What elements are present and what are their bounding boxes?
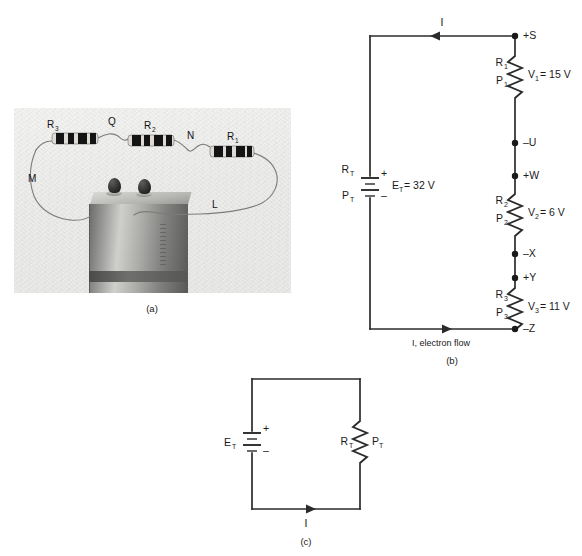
b-node-dot-X xyxy=(512,251,518,257)
c-resistor-RT-symbol xyxy=(353,421,367,463)
svg-text:P: P xyxy=(372,435,379,447)
b-resistor-R1-symbol xyxy=(508,56,522,98)
c-current-arrow-bottom xyxy=(306,505,316,514)
panel-b-schematic: + – R T P T E T = 32 V R 1 xyxy=(341,16,570,366)
b-source-resistance-label: R T xyxy=(341,163,355,177)
panel-c-schematic: + – E T R T P T I (c) xyxy=(224,379,384,547)
schematics-overlay: (a) + – R xyxy=(0,0,582,556)
svg-text:2: 2 xyxy=(535,213,539,220)
svg-text:3: 3 xyxy=(504,313,508,320)
b-node-dot-W xyxy=(512,173,518,179)
c-battery-plus: + xyxy=(263,422,269,434)
caption-a: (a) xyxy=(146,303,158,314)
svg-text:T: T xyxy=(379,442,384,449)
svg-text:3: 3 xyxy=(504,295,508,302)
b-node-label-S: +S xyxy=(523,29,536,41)
svg-text:R: R xyxy=(341,163,349,175)
c-load-resistance-label: R T xyxy=(340,435,354,449)
c-battery-symbol xyxy=(243,433,261,451)
b-power-P1-label: P 1 xyxy=(496,74,508,88)
svg-text:T: T xyxy=(349,442,354,449)
b-current-arrow-bottom xyxy=(442,325,452,334)
c-load-power-label: P T xyxy=(372,435,384,449)
b-current-arrow-top xyxy=(430,32,440,41)
b-emf-label: E T = 32 V xyxy=(392,179,435,193)
b-resistor-R3-symbol xyxy=(508,288,522,330)
b-battery-plus: + xyxy=(381,167,387,179)
b-node-label-U: –U xyxy=(523,136,536,148)
b-battery-symbol xyxy=(361,178,379,196)
svg-text:T: T xyxy=(232,443,237,450)
svg-text:P: P xyxy=(496,306,503,318)
svg-text:V: V xyxy=(528,68,535,80)
b-current-label-top: I xyxy=(441,16,444,28)
svg-text:V: V xyxy=(528,206,535,218)
b-resistor-R2-label: R 2 xyxy=(495,194,508,208)
svg-text:P: P xyxy=(496,74,503,86)
svg-text:R: R xyxy=(340,435,348,447)
c-current-label-bottom: I xyxy=(305,517,308,529)
b-node-label-W: +W xyxy=(523,169,539,181)
b-voltage-V1-label: V 1 = 15 V xyxy=(528,68,571,82)
svg-text:= 32 V: = 32 V xyxy=(404,179,435,191)
b-source-power-label: P T xyxy=(342,189,355,203)
svg-text:P: P xyxy=(496,212,503,224)
b-resistor-R1-label: R 1 xyxy=(495,56,508,70)
svg-text:= 11 V: = 11 V xyxy=(540,300,570,312)
b-current-label-bottom: I, electron flow xyxy=(412,338,471,348)
b-power-P3-label: P 3 xyxy=(496,306,508,320)
svg-text:2: 2 xyxy=(504,219,508,226)
b-node-dot-Z xyxy=(512,326,518,332)
c-emf-label: E T xyxy=(224,436,237,450)
svg-text:1: 1 xyxy=(535,75,539,82)
b-voltage-V3-label: V 3 = 11 V xyxy=(528,300,570,314)
b-voltage-V2-label: V 2 = 6 V xyxy=(528,206,565,220)
svg-text:R: R xyxy=(495,288,503,300)
figure-root: R 3 Q R 2 N R 1 M L (a) xyxy=(0,0,582,556)
b-node-label-X: –X xyxy=(523,247,536,259)
svg-text:V: V xyxy=(528,300,535,312)
b-node-dot-Y xyxy=(512,275,518,281)
b-node-dot-S xyxy=(512,33,518,39)
svg-text:P: P xyxy=(342,189,349,201)
caption-c: (c) xyxy=(300,536,311,547)
b-resistor-R3-label: R 3 xyxy=(495,288,508,302)
svg-text:3: 3 xyxy=(535,307,539,314)
b-node-label-Z: –Z xyxy=(523,322,536,334)
svg-text:R: R xyxy=(495,194,503,206)
b-node-dot-U xyxy=(512,140,518,146)
svg-text:= 6 V: = 6 V xyxy=(540,206,565,218)
svg-text:1: 1 xyxy=(504,63,508,70)
caption-b: (b) xyxy=(446,355,458,366)
svg-text:E: E xyxy=(224,436,231,448)
svg-text:2: 2 xyxy=(504,201,508,208)
svg-text:T: T xyxy=(350,196,355,203)
b-power-P2-label: P 2 xyxy=(496,212,508,226)
svg-text:R: R xyxy=(495,56,503,68)
c-battery-minus: – xyxy=(263,444,269,456)
svg-text:T: T xyxy=(350,170,355,177)
svg-text:= 15 V: = 15 V xyxy=(540,68,571,80)
svg-text:1: 1 xyxy=(504,81,508,88)
b-battery-minus: – xyxy=(381,189,387,201)
svg-text:E: E xyxy=(392,179,399,191)
b-resistor-R2-symbol xyxy=(508,194,522,236)
b-node-label-Y: +Y xyxy=(523,271,536,283)
